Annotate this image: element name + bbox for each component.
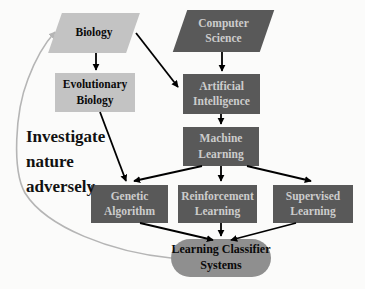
edge-supervised-learning-to-lcs — [231, 223, 296, 240]
node-label: Reinforcement Learning — [178, 189, 257, 219]
node-reinforcement-learning: Reinforcement Learning — [178, 185, 257, 223]
node-label: Artificial Intelligence — [183, 79, 260, 109]
edge-machine-learning-to-supervised-learning — [247, 166, 311, 181]
node-biology: Biology — [48, 13, 140, 53]
node-artificial-intelligence: Artificial Intelligence — [183, 74, 260, 114]
node-label: Biology — [48, 25, 140, 40]
node-label: Learning Classifier Systems — [171, 242, 271, 274]
edge-machine-learning-to-genetic-algorithm — [134, 166, 202, 181]
node-label: Machine Learning — [183, 131, 259, 161]
flowchart-diagram: Biology Computer Science Evolutionary Bi… — [0, 0, 365, 289]
node-machine-learning: Machine Learning — [183, 127, 259, 166]
node-learning-classifier-systems: Learning Classifier Systems — [171, 239, 271, 277]
annotation-investigate-nature-adversely: Investigate nature adversely — [26, 124, 124, 199]
edge-genetic-algorithm-to-lcs — [140, 223, 213, 240]
node-supervised-learning: Supervised Learning — [273, 185, 353, 223]
node-computer-science: Computer Science — [172, 10, 275, 52]
node-label: Computer Science — [188, 16, 260, 46]
node-label: Supervised Learning — [273, 189, 353, 219]
node-evolutionary-biology: Evolutionary Biology — [55, 73, 135, 112]
node-label: Evolutionary Biology — [55, 77, 135, 107]
